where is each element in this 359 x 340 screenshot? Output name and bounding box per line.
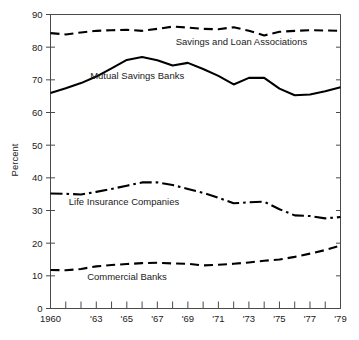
y-axis-tick-labels: 0102030405060708090: [32, 9, 43, 314]
chart-container: 0102030405060708090 1960'63'65'67'69'71'…: [0, 0, 359, 340]
series-label-commercial-banks: Commercial Banks: [87, 271, 167, 282]
series-label-mutual-savings-banks: Mutual Savings Banks: [90, 70, 184, 81]
x-axis-tick-label: '75: [273, 313, 285, 324]
x-axis-tick-label: '71: [212, 313, 224, 324]
series-line-commercial-banks: [51, 245, 341, 270]
x-axis-tick-labels: 1960'63'65'67'69'71'73'75'77'79: [40, 313, 347, 324]
y-axis-tick-label: 40: [32, 172, 43, 183]
y-axis-title: Percent: [9, 143, 20, 176]
x-axis-tick-label: '77: [304, 313, 316, 324]
y-axis-tick-label: 50: [32, 140, 43, 151]
y-axis-tick-label: 80: [32, 42, 43, 53]
x-axis-tick-label: '65: [121, 313, 133, 324]
y-axis-tick-label: 30: [32, 205, 43, 216]
x-axis-tick-label: '69: [182, 313, 194, 324]
y-axis-tick-label: 90: [32, 9, 43, 20]
x-axis-tick-label: '63: [90, 313, 102, 324]
y-axis-tick-label: 10: [32, 270, 43, 281]
x-axis-tick-label: '79: [334, 313, 346, 324]
line-chart: 0102030405060708090 1960'63'65'67'69'71'…: [0, 0, 359, 340]
x-axis-tick-label: '73: [243, 313, 255, 324]
y-axis-tick-label: 70: [32, 74, 43, 85]
x-axis-tick-label: '67: [151, 313, 163, 324]
series-line-savings-and-loan-associations: [51, 27, 341, 36]
series-label-savings-and-loan-associations: Savings and Loan Associations: [176, 36, 308, 47]
y-axis-tick-label: 20: [32, 238, 43, 249]
x-axis-tick-label: 1960: [40, 313, 61, 324]
series-label-life-insurance-companies: Life Insurance Companies: [69, 196, 180, 207]
series-annotation-group: Savings and Loan AssociationsMutual Savi…: [69, 36, 308, 282]
y-axis-tick-label: 60: [32, 107, 43, 118]
x-axis-ticks: [51, 302, 341, 309]
data-series-group: [51, 27, 341, 271]
